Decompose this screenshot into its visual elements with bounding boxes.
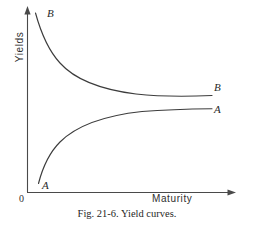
- origin-label: 0: [19, 194, 24, 204]
- curve-b-start-label: B: [47, 8, 54, 19]
- x-axis-arrowhead: [228, 189, 237, 195]
- yield-curves-figure: B B A A Yields Maturity 0 Fig. 21-6. Yie…: [0, 0, 254, 229]
- curve-b-path: [36, 13, 213, 96]
- curve-a-path: [39, 109, 213, 184]
- x-axis-title: Maturity: [152, 194, 192, 204]
- figure-caption: Fig. 21-6. Yield curves.: [0, 208, 254, 220]
- curve-b-end-label: B: [214, 82, 221, 93]
- curve-a-end-label: A: [214, 104, 221, 115]
- curve-a-start-label: A: [42, 180, 49, 191]
- y-axis-title: Yields: [15, 17, 25, 77]
- y-axis-arrowhead: [24, 6, 30, 15]
